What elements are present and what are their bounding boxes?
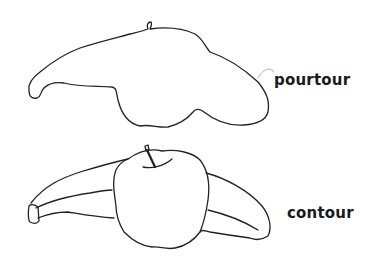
label-contour: contour: [287, 206, 354, 221]
figure-canvas: pourtour contour: [0, 0, 389, 265]
silhouette-outline-drawing: [29, 22, 274, 127]
label-pourtour: pourtour: [274, 73, 350, 88]
drawing-svg: [0, 0, 389, 265]
contour-line-drawing: [28, 145, 270, 249]
